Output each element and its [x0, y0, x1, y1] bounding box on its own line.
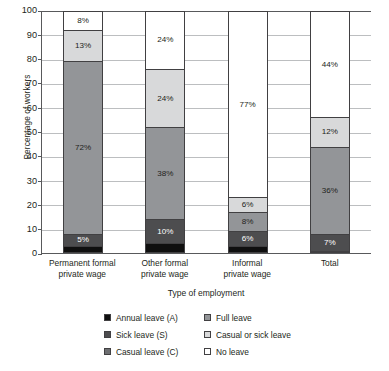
- legend-item[interactable]: Casual leave (C): [104, 347, 204, 357]
- x-axis-title: Type of employment: [41, 288, 371, 298]
- bar-segment-value-label: 24%: [157, 36, 173, 44]
- bar-segment[interactable]: 36%: [310, 147, 350, 234]
- stacked-bar[interactable]: 77%6%8%6%: [228, 11, 268, 253]
- bar-segment[interactable]: 44%: [310, 11, 350, 117]
- x-axis-category-label: Other formalprivate wage: [124, 258, 207, 281]
- bar-segment-value-label: 10%: [157, 228, 173, 236]
- x-axis-category-label-line: Informal: [207, 258, 288, 269]
- bar-segment-value-label: 13%: [75, 42, 91, 50]
- legend-item-label: Sick leave (S): [116, 330, 168, 340]
- bar-segment[interactable]: 24%: [145, 69, 185, 127]
- legend-item-label: Casual leave (C): [116, 347, 178, 357]
- bar-segment[interactable]: 13%: [63, 30, 103, 61]
- legend-color-swatch-icon: [104, 314, 111, 321]
- bar-slot: 44%12%36%7%: [289, 11, 371, 253]
- x-axis-category-label-line: Other formal: [125, 258, 206, 269]
- x-axis-category-label: Total: [289, 258, 372, 281]
- x-axis-category-label-line: private wage: [207, 269, 288, 280]
- x-axis-category-label-line: Permanent formal: [42, 258, 123, 269]
- bar-segment[interactable]: 72%: [63, 61, 103, 233]
- bar-segment-value-label: 36%: [322, 187, 338, 195]
- legend-color-swatch-icon: [204, 331, 211, 338]
- legend-color-swatch-icon: [104, 348, 111, 355]
- stacked-bar[interactable]: 24%24%38%10%: [145, 11, 185, 253]
- bar-segment-value-label: 5%: [77, 236, 89, 244]
- y-axis-tick-mark: [38, 254, 42, 255]
- x-axis-category-label: Informalprivate wage: [206, 258, 289, 281]
- bar-segment-value-label: 8%: [242, 218, 254, 226]
- legend-item[interactable]: Casual or sick leave: [204, 330, 344, 340]
- legend-color-swatch-icon: [104, 331, 111, 338]
- bar-segment[interactable]: 8%: [228, 212, 268, 231]
- legend-item[interactable]: Sick leave (S): [104, 330, 204, 340]
- bar-slot: 8%13%72%5%: [42, 11, 124, 253]
- stacked-bar[interactable]: 8%13%72%5%: [63, 11, 103, 253]
- bar-segment[interactable]: 6%: [228, 197, 268, 212]
- bar-segment[interactable]: 10%: [145, 219, 185, 243]
- bar-segment-value-label: 8%: [77, 17, 89, 25]
- chart-legend: Annual leave (A)Full leaveSick leave (S)…: [104, 309, 344, 360]
- bar-segment[interactable]: [63, 246, 103, 253]
- bar-segment[interactable]: [145, 243, 185, 253]
- bar-segment-value-label: 12%: [322, 128, 338, 136]
- bar-segment[interactable]: 38%: [145, 127, 185, 219]
- legend-item[interactable]: No leave: [204, 347, 344, 357]
- x-axis-category-label-line: private wage: [42, 269, 123, 280]
- bar-layer: 8%13%72%5%24%24%38%10%77%6%8%6%44%12%36%…: [42, 11, 371, 253]
- x-axis-category-label: Permanent formalprivate wage: [41, 258, 124, 281]
- bar-segment[interactable]: 8%: [63, 11, 103, 30]
- bar-segment-value-label: 72%: [75, 144, 91, 152]
- legend-color-swatch-icon: [204, 314, 211, 321]
- legend-item-label: No leave: [216, 347, 249, 357]
- stacked-bar-chart: Percentage of workers 010203040506070809…: [0, 0, 389, 371]
- legend-item[interactable]: Annual leave (A): [104, 313, 204, 323]
- bar-segment-value-label: 77%: [240, 101, 256, 109]
- bar-segment[interactable]: 24%: [145, 11, 185, 69]
- stacked-bar[interactable]: 44%12%36%7%: [310, 11, 350, 253]
- bar-segment-value-label: 6%: [242, 235, 254, 243]
- bar-slot: 24%24%38%10%: [124, 11, 206, 253]
- legend-color-swatch-icon: [204, 348, 211, 355]
- bar-segment[interactable]: 6%: [228, 231, 268, 246]
- legend-item-label: Full leave: [216, 313, 252, 323]
- bar-slot: 77%6%8%6%: [207, 11, 289, 253]
- bar-segment[interactable]: [228, 246, 268, 253]
- plot-area: 0102030405060708090100 8%13%72%5%24%24%3…: [41, 11, 371, 254]
- bar-segment-value-label: 7%: [324, 239, 336, 247]
- x-axis-category-labels: Permanent formalprivate wageOther formal…: [41, 258, 371, 281]
- legend-item-label: Casual or sick leave: [216, 330, 291, 340]
- bar-segment-value-label: 44%: [322, 61, 338, 69]
- legend-item-label: Annual leave (A): [116, 313, 178, 323]
- bar-segment[interactable]: 5%: [63, 234, 103, 246]
- bar-segment[interactable]: 12%: [310, 117, 350, 146]
- bar-segment-value-label: 38%: [157, 170, 173, 178]
- bar-segment[interactable]: [310, 251, 350, 253]
- x-axis-category-label-line: Total: [290, 258, 371, 269]
- bar-segment-value-label: 6%: [242, 201, 254, 209]
- bar-segment[interactable]: 77%: [228, 11, 268, 197]
- bar-segment-value-label: 24%: [157, 95, 173, 103]
- legend-item[interactable]: Full leave: [204, 313, 344, 323]
- x-axis-category-label-line: private wage: [125, 269, 206, 280]
- bar-segment[interactable]: 7%: [310, 234, 350, 251]
